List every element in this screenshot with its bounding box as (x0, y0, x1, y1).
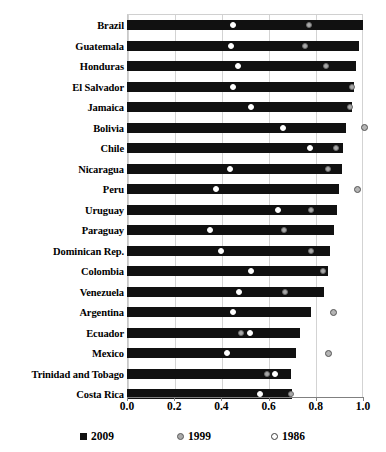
bar-row[interactable] (127, 282, 363, 303)
marker-1986[interactable] (307, 145, 313, 151)
bar-2009[interactable] (127, 266, 328, 276)
bar-row[interactable] (127, 179, 363, 200)
legend-open-circle-icon (271, 433, 278, 440)
bar-row[interactable] (127, 241, 363, 262)
category-label: Ecuador (0, 328, 124, 339)
legend-item-1986: 1986 (271, 428, 305, 444)
x-tick-mark (363, 397, 364, 401)
legend-item-2009: 2009 (80, 428, 114, 444)
marker-1999[interactable] (325, 350, 332, 357)
bar-row[interactable] (127, 15, 363, 36)
bar-row[interactable] (127, 138, 363, 159)
category-label: Chile (0, 143, 124, 154)
x-axis-line (127, 397, 363, 398)
bar-2009[interactable] (127, 20, 363, 30)
bar-row[interactable] (127, 302, 363, 323)
x-tick-label: 0.0 (107, 400, 147, 412)
bar-row[interactable] (127, 97, 363, 118)
legend-label-2009: 2009 (91, 430, 114, 442)
category-label: Venezuela (0, 287, 124, 298)
legend-gray-circle-icon (177, 433, 184, 440)
marker-1999[interactable] (361, 124, 368, 131)
series-layer (127, 14, 363, 398)
marker-1999[interactable] (330, 309, 337, 316)
marker-1986[interactable] (228, 43, 234, 49)
bar-2009[interactable] (127, 307, 311, 317)
legend-square-icon (80, 433, 87, 440)
bar-row[interactable] (127, 343, 363, 364)
bar-2009[interactable] (127, 41, 359, 51)
bar-2009[interactable] (127, 246, 330, 256)
x-tick-mark (221, 397, 222, 401)
bar-2009[interactable] (127, 102, 352, 112)
bar-row[interactable] (127, 364, 363, 385)
marker-1986[interactable] (213, 186, 219, 192)
marker-1999[interactable] (308, 207, 314, 213)
category-label: Jamaica (0, 102, 124, 113)
bar-2009[interactable] (127, 205, 337, 215)
marker-1999[interactable] (281, 227, 287, 233)
bar-2009[interactable] (127, 82, 354, 92)
bar-2009[interactable] (127, 61, 356, 71)
marker-1986[interactable] (280, 125, 286, 131)
bar-2009[interactable] (127, 123, 346, 133)
bar-row[interactable] (127, 220, 363, 241)
x-tick-mark (127, 397, 128, 401)
category-label: Peru (0, 184, 124, 195)
marker-1999[interactable] (349, 84, 355, 90)
marker-1999[interactable] (325, 166, 331, 172)
chart-legend: 2009 1999 1986 (0, 428, 386, 448)
marker-1986[interactable] (275, 207, 281, 213)
bar-2009[interactable] (127, 164, 342, 174)
marker-1986[interactable] (227, 166, 233, 172)
bar-row[interactable] (127, 118, 363, 139)
marker-1986[interactable] (247, 330, 253, 336)
category-label: Argentina (0, 307, 124, 318)
bar-2009[interactable] (127, 225, 334, 235)
x-tick-label: 1.0 (343, 400, 383, 412)
bar-row[interactable] (127, 261, 363, 282)
marker-1999[interactable] (302, 43, 308, 49)
marker-1986[interactable] (248, 268, 254, 274)
category-label: Dominican Rep. (0, 246, 124, 257)
marker-1999[interactable] (354, 186, 361, 193)
category-label: Mexico (0, 348, 124, 359)
x-tick-label: 0.8 (296, 400, 336, 412)
bar-row[interactable] (127, 159, 363, 180)
bar-row[interactable] (127, 200, 363, 221)
category-label: Brazil (0, 20, 124, 31)
category-label: Paraguay (0, 225, 124, 236)
category-label: Colombia (0, 266, 124, 277)
marker-1986[interactable] (207, 227, 213, 233)
bar-row[interactable] (127, 323, 363, 344)
bar-2009[interactable] (127, 184, 339, 194)
bar-2009[interactable] (127, 287, 324, 297)
category-label: Guatemala (0, 41, 124, 52)
marker-1999[interactable] (347, 104, 353, 110)
bar-2009[interactable] (127, 328, 300, 338)
x-axis-tick-labels: 0.00.20.40.60.81.0 (0, 400, 386, 418)
marker-1999[interactable] (282, 289, 288, 295)
marker-1986[interactable] (218, 248, 224, 254)
marker-1986[interactable] (248, 104, 254, 110)
bar-row[interactable] (127, 77, 363, 98)
legend-item-1999: 1999 (177, 428, 211, 444)
marker-1999[interactable] (320, 268, 326, 274)
marker-1999[interactable] (306, 22, 312, 28)
x-tick-mark (269, 397, 270, 401)
x-tick-mark (316, 397, 317, 401)
bar-2009[interactable] (127, 348, 296, 358)
marker-1986[interactable] (272, 371, 278, 377)
bar-row[interactable] (127, 36, 363, 57)
marker-1999[interactable] (264, 371, 270, 377)
marker-1999[interactable] (333, 145, 339, 151)
x-tick-label: 0.6 (249, 400, 289, 412)
bar-row[interactable] (127, 56, 363, 77)
marker-1986[interactable] (235, 63, 241, 69)
marker-1999[interactable] (308, 248, 314, 254)
marker-1986[interactable] (236, 289, 242, 295)
category-label: El Salvador (0, 82, 124, 93)
x-tick-label: 0.2 (154, 400, 194, 412)
marker-1986[interactable] (230, 84, 236, 90)
category-label: Costa Rica (0, 389, 124, 400)
